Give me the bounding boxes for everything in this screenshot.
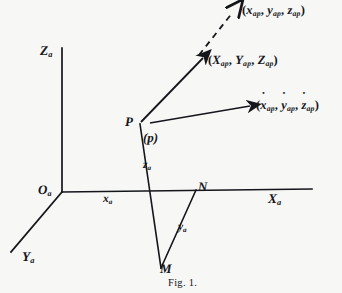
vector-label-velocity: (xap, yap, zap) [256,99,319,112]
axis-line-y [11,192,62,252]
vector-label-acceleration: (xap, yap, zap) [242,4,305,17]
figure-canvas: Za Xa Ya Oa P (p) N M xa za ya (xap, yap… [0,0,342,293]
axis-label-z: Za [40,44,53,59]
figure-caption: Fig. 1. [168,277,197,288]
vector-line-velocity [150,106,250,123]
component-line-za [140,124,161,268]
point-label-p: P [125,115,133,128]
vector-label-position: (Xap, Yap, Zap) [208,54,278,67]
vector-line-position [141,58,203,122]
axis-label-y: Ya [22,250,35,265]
point-label-n: N [198,180,207,193]
component-label-za: za [143,160,151,172]
axis-label-x: Xa [268,192,281,207]
point-label-p-parenthetical: (p) [143,131,158,144]
point-label-m: M [160,262,172,275]
component-label-ya: ya [178,222,187,234]
point-label-origin: Oa [38,183,52,198]
vector-line-acceleration [199,12,233,55]
component-label-xa: xa [103,194,113,206]
